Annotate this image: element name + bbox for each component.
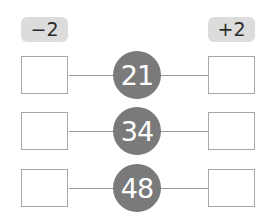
answer-box-right-1[interactable]	[208, 56, 255, 94]
answer-box-right-2[interactable]	[208, 112, 255, 150]
minus-two-label: −2	[21, 17, 68, 42]
row-1: 21	[0, 51, 271, 99]
answer-box-left-2[interactable]	[21, 112, 68, 150]
number-circle-3: 48	[113, 164, 161, 212]
row-3: 48	[0, 164, 271, 212]
answer-box-left-1[interactable]	[21, 56, 68, 94]
plus-two-label: +2	[208, 17, 255, 42]
answer-box-left-3[interactable]	[21, 169, 68, 207]
answer-box-right-3[interactable]	[208, 169, 255, 207]
number-circle-1: 21	[113, 51, 161, 99]
number-circle-2: 34	[113, 107, 161, 155]
row-2: 34	[0, 107, 271, 155]
